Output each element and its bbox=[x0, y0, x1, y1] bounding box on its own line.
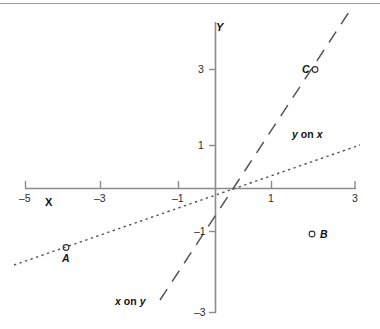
plot-area bbox=[0, 0, 380, 329]
data-point-c bbox=[312, 67, 318, 73]
series-label-y-on-x-var2: x bbox=[317, 128, 323, 140]
data-point-label-b: B bbox=[320, 228, 328, 240]
series-label-y-on-x-on: on bbox=[301, 128, 314, 140]
chart-figure: –5 –3 –1 1 3 3 1 –1 –3 X Y yonx xony A B… bbox=[0, 0, 380, 329]
x-tick-label--1: –1 bbox=[172, 192, 184, 204]
x-axis-label: X bbox=[45, 196, 52, 208]
series-label-x-on-y: xony bbox=[115, 295, 146, 307]
regression-line-x-on-y bbox=[160, 12, 349, 300]
series-label-y-on-x: yonx bbox=[292, 128, 323, 140]
data-point-label-c: C bbox=[302, 63, 310, 75]
y-axis-label: Y bbox=[216, 21, 223, 33]
x-tick-label--5: –5 bbox=[19, 192, 31, 204]
x-tick-label-1: 1 bbox=[268, 192, 274, 204]
series-label-x-on-y-var2: y bbox=[140, 295, 146, 307]
series-label-x-on-y-on: on bbox=[124, 295, 137, 307]
y-tick-label-1: 1 bbox=[198, 139, 204, 151]
y-tick-label--3: –3 bbox=[194, 306, 206, 318]
data-point-label-a: A bbox=[62, 252, 70, 264]
y-tick-label--1: –1 bbox=[194, 225, 206, 237]
x-tick-label--3: –3 bbox=[94, 192, 106, 204]
y-tick-label-3: 3 bbox=[198, 63, 204, 75]
series-label-x-on-y-var1: x bbox=[115, 295, 121, 307]
x-tick-label-3: 3 bbox=[352, 192, 358, 204]
series-label-y-on-x-var1: y bbox=[292, 128, 298, 140]
regression-line-y-on-x bbox=[14, 145, 360, 265]
data-point-b bbox=[309, 231, 315, 237]
